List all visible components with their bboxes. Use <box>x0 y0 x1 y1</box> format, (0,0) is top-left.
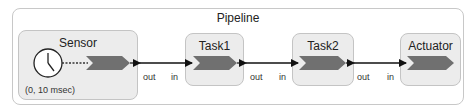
reaction-actuator[interactable] <box>407 56 454 70</box>
reaction-task2[interactable] <box>299 56 346 70</box>
reaction-sensor[interactable] <box>86 56 130 70</box>
port-label-task2-out: out <box>357 72 370 82</box>
diagram-graphics <box>0 0 476 111</box>
port-label-task1-in: in <box>171 72 178 82</box>
port-label-task1-out: out <box>250 72 263 82</box>
reaction-task1[interactable] <box>193 56 237 70</box>
port-label-sensor-out: out <box>143 72 156 82</box>
port-label-actuator-in: in <box>387 72 394 82</box>
clock-icon <box>34 49 62 77</box>
port-label-task2-in: in <box>279 72 286 82</box>
